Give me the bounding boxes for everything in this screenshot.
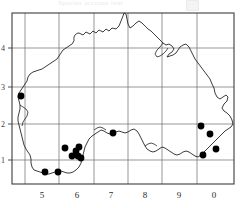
- record-dot: [200, 152, 207, 159]
- y-axis-tick-label: 1: [0, 156, 5, 165]
- y-axis-tick-label: 3: [0, 83, 5, 92]
- x-axis-tick-label: 5: [35, 189, 49, 201]
- x-axis-tick-label: 7: [104, 189, 118, 201]
- record-dot: [198, 123, 205, 130]
- x-axis-tick-label: 9: [172, 189, 186, 201]
- x-axis-tick-label: 6: [70, 189, 84, 201]
- record-dot: [110, 130, 117, 137]
- y-axis-tick-label: 4: [0, 44, 5, 53]
- map-background: [12, 13, 234, 184]
- record-dot: [18, 93, 25, 100]
- y-axis-tick-label: 2: [0, 120, 5, 129]
- record-dot: [207, 131, 214, 138]
- record-dot: [73, 148, 80, 155]
- y-tick-marks: [8, 48, 12, 160]
- record-dot: [62, 145, 69, 152]
- record-dot: [213, 146, 220, 153]
- x-axis-tick-label: 0: [207, 189, 221, 201]
- record-dot: [55, 169, 62, 176]
- map-canvas: [0, 0, 249, 208]
- record-dot: [42, 169, 49, 176]
- record-dot: [78, 155, 85, 162]
- distribution-map-figure: Species account text: [0, 0, 249, 208]
- x-axis-tick-label: 8: [138, 189, 152, 201]
